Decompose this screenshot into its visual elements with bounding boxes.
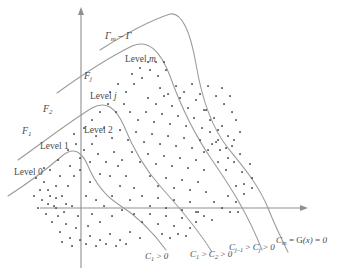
scatter-point (111, 215, 113, 217)
scatter-point (155, 103, 157, 105)
scatter-point (221, 87, 223, 89)
axes-group (40, 7, 308, 268)
scatter-point (173, 225, 175, 227)
scatter-point (221, 207, 223, 209)
scatter-point (65, 203, 67, 205)
scatter-point (201, 127, 203, 129)
scatter-point (181, 209, 183, 211)
scatter-point (75, 227, 77, 229)
scatter-point (189, 227, 191, 229)
scatter-point (131, 73, 133, 75)
scatter-point (137, 119, 139, 121)
scatter-point (115, 245, 117, 247)
scatter-point (139, 67, 141, 69)
scatter-point (99, 111, 101, 113)
scatter-point (209, 131, 211, 133)
scatter-point (121, 159, 123, 161)
scatter-point (235, 201, 237, 203)
scatter-point (157, 185, 159, 187)
scatter-point (117, 165, 119, 167)
scatter-point (95, 245, 97, 247)
y-axis-arrowhead (78, 7, 84, 15)
scatter-point (171, 105, 173, 107)
scatter-point (109, 233, 111, 235)
scatter-point (173, 199, 175, 201)
label-level-2: Level 2 (84, 126, 113, 136)
scatter-point (63, 211, 65, 213)
scatter-point (57, 215, 59, 217)
scatter-point (203, 215, 205, 217)
label-gamma-region: Γm – Γ (105, 31, 131, 43)
scatter-point (127, 139, 129, 141)
scatter-point (251, 187, 253, 189)
scatter-point (69, 165, 71, 167)
scatter-point (221, 125, 223, 127)
scatter-point (173, 187, 175, 189)
scatter-point (213, 117, 215, 119)
scatter-point (89, 161, 91, 163)
scatter-point (69, 237, 71, 239)
scatter-point (139, 237, 141, 239)
scatter-point (195, 211, 197, 213)
label-f-1: F1 (22, 126, 32, 138)
scatter-point (147, 97, 149, 99)
scatter-point (209, 119, 211, 121)
scatter-point (51, 221, 53, 223)
scatter-point (115, 111, 117, 113)
scatter-point (197, 211, 199, 213)
scatter-point (155, 163, 157, 165)
scatter-point (225, 169, 227, 171)
scatter-point (129, 111, 131, 113)
label-curve-c1: C1 > 0 (145, 252, 168, 262)
scatter-point (61, 195, 63, 197)
scatter-point (239, 131, 241, 133)
scatter-point (45, 213, 47, 215)
scatter-point (139, 161, 141, 163)
scatter-point (49, 169, 51, 171)
scatter-point (113, 151, 115, 153)
scatter-point (203, 151, 205, 153)
scatter-point (227, 135, 229, 137)
scatter-point (199, 93, 201, 95)
scatter-point (215, 141, 217, 143)
scatter-point (189, 189, 191, 191)
scatter-point (141, 77, 143, 79)
scatter-point (165, 215, 167, 217)
scatter-point (249, 163, 251, 165)
scatter-point (79, 239, 81, 241)
scatter-point (251, 177, 253, 179)
scatter-point (65, 223, 67, 225)
scatter-point (59, 231, 61, 233)
scatter-point (133, 213, 135, 215)
scatter-point (193, 117, 195, 119)
scatter-point (123, 103, 125, 105)
scatter-point (149, 213, 151, 215)
scatter-point (67, 185, 69, 187)
scatter-point (105, 161, 107, 163)
scatter-point (109, 175, 111, 177)
boundary-curve-f2 (18, 105, 212, 252)
scatter-point (213, 201, 215, 203)
scatter-point (39, 189, 41, 191)
scatter-point (153, 121, 155, 123)
scatter-point (215, 95, 217, 97)
scatter-point (235, 185, 237, 187)
scatter-point (91, 143, 93, 145)
scatter-point (77, 215, 79, 217)
scatter-point (225, 147, 227, 149)
label-level-m: Level m (125, 55, 156, 65)
scatter-point (121, 209, 123, 211)
scatter-point (183, 137, 185, 139)
scatter-point (61, 241, 63, 243)
boundary-curve-f1 (8, 151, 166, 250)
scatter-point (129, 231, 131, 233)
scatter-point (57, 159, 59, 161)
scatter-point (157, 75, 159, 77)
label-level-1: Level 1 (40, 142, 69, 152)
scatter-point (189, 201, 191, 203)
scatter-point (135, 131, 137, 133)
scatter-point (195, 99, 197, 101)
scatter-point (219, 149, 221, 151)
scatter-point (119, 185, 121, 187)
scatter-point (159, 87, 161, 89)
